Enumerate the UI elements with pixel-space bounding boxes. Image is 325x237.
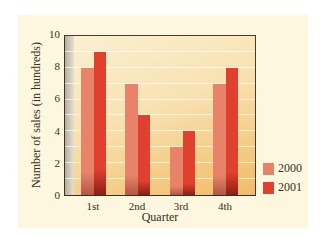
bar-3rd-2001: [183, 131, 196, 195]
x-tick-label: 1st: [73, 200, 113, 212]
legend-label-2001: 2001: [278, 181, 302, 194]
y-tick-label: 4: [42, 126, 60, 137]
bar-4th-2000: [213, 84, 226, 195]
y-tick-label: 6: [42, 93, 60, 104]
legend-label-2000: 2000: [278, 162, 302, 175]
plot-area: [64, 35, 256, 196]
y-tick-label: 8: [42, 61, 60, 72]
y-tick-label: 0: [42, 190, 60, 201]
bar-2nd-2000: [125, 84, 138, 195]
x-axis-label: Quarter: [120, 211, 200, 224]
bar-4th-2001: [226, 68, 239, 195]
x-tick-label: 4th: [205, 200, 245, 212]
y-tick-label: 10: [42, 29, 60, 40]
bar-3rd-2000: [170, 147, 183, 195]
bar-2nd-2001: [138, 115, 151, 195]
plot-left-shading: [65, 36, 74, 195]
legend-swatch-2001: [263, 182, 274, 194]
bar-1st-2000: [81, 68, 94, 195]
legend-swatch-2000: [263, 163, 274, 175]
y-axis-label: Number of sales (in hundreds): [30, 42, 43, 188]
bar-1st-2001: [94, 52, 107, 195]
y-tick-label: 2: [42, 158, 60, 169]
